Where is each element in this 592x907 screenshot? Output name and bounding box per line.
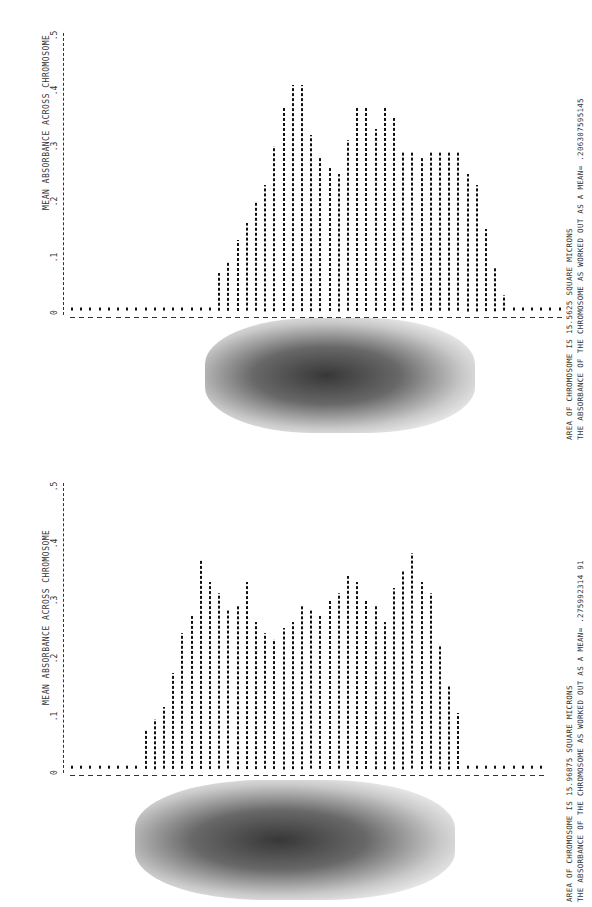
bar <box>484 764 488 770</box>
baseline-mark <box>392 775 397 776</box>
bar <box>190 616 194 770</box>
bar <box>355 107 359 312</box>
bar <box>282 628 286 771</box>
baseline-mark <box>410 775 415 776</box>
baseline-mark <box>116 775 121 776</box>
bar <box>236 605 240 770</box>
baseline-mark <box>428 317 433 318</box>
baseline-mark <box>263 775 268 776</box>
bar <box>199 306 203 312</box>
bar <box>530 764 534 770</box>
bar <box>383 107 387 312</box>
baseline-mark <box>539 317 544 318</box>
bar <box>456 151 460 312</box>
baseline-mark <box>208 775 213 776</box>
baseline-mark <box>392 317 397 318</box>
baseline-mark <box>364 775 369 776</box>
baseline-mark <box>254 317 259 318</box>
bar <box>374 129 378 312</box>
tick-3: .3 <box>50 142 59 152</box>
bar <box>539 306 543 312</box>
bar <box>420 157 424 312</box>
y-axis-label: MEAN ABSORBANCE ACROSS CHROMOSOME <box>42 530 51 705</box>
chromosome-image <box>205 318 475 433</box>
bar <box>134 306 138 312</box>
bar <box>180 306 184 312</box>
tick-1: .1 <box>50 253 59 263</box>
tick-4: .4 <box>50 86 59 96</box>
bar <box>502 764 506 770</box>
bar <box>438 151 442 312</box>
bar <box>392 588 396 770</box>
caption-mean: THE ABSORBANCE OF THE CHROMOSOME AS WORK… <box>576 560 585 902</box>
bar <box>263 185 267 312</box>
baseline-mark <box>79 775 84 776</box>
bar <box>171 306 175 312</box>
bar <box>171 673 175 770</box>
tick-5: .5 <box>50 482 59 492</box>
tick-1: .1 <box>50 712 59 722</box>
baseline-mark <box>474 317 479 318</box>
bar <box>521 764 525 770</box>
bar <box>429 593 433 770</box>
baseline-mark <box>373 775 378 776</box>
bar <box>272 639 276 770</box>
bar <box>98 306 102 312</box>
bar <box>180 633 184 770</box>
baseline-mark <box>208 317 213 318</box>
baseline-mark <box>79 317 84 318</box>
bar <box>392 118 396 312</box>
bar <box>79 306 83 312</box>
baseline-mark <box>346 775 351 776</box>
baseline-mark <box>474 775 479 776</box>
bar <box>429 151 433 312</box>
baseline-mark <box>290 775 295 776</box>
baseline-mark <box>162 775 167 776</box>
baseline-mark <box>493 775 498 776</box>
y-axis-line <box>63 483 64 773</box>
baseline-mark <box>272 317 277 318</box>
baseline-mark <box>438 317 443 318</box>
bar <box>134 764 138 770</box>
caption-area: AREA OF CHROMOSOME IS 15.96875 SQUARE MI… <box>565 685 574 902</box>
baseline-mark <box>134 775 139 776</box>
bar <box>116 306 120 312</box>
bar <box>558 306 562 312</box>
baseline-mark <box>116 317 121 318</box>
baseline-mark <box>171 775 176 776</box>
bar <box>447 151 451 312</box>
baseline-mark <box>511 317 516 318</box>
bar <box>88 306 92 312</box>
baseline-mark <box>300 775 305 776</box>
baseline-mark <box>106 775 111 776</box>
bar <box>153 306 157 312</box>
baseline-mark <box>484 775 489 776</box>
tick-3: .3 <box>50 596 59 606</box>
bar <box>475 764 479 770</box>
baseline-mark <box>419 775 424 776</box>
bar <box>291 85 295 312</box>
baseline-mark <box>152 317 157 318</box>
bar <box>401 571 405 771</box>
bar <box>263 633 267 770</box>
baseline-mark <box>134 317 139 318</box>
bar <box>254 201 258 312</box>
y-axis-label: MEAN ABSORBANCE ACROSS CHROMOSOME <box>42 35 51 210</box>
bar <box>364 599 368 770</box>
bar <box>125 306 129 312</box>
caption-area: AREA OF CHROMOSOME IS 15.5625 SQUARE MIC… <box>565 228 574 440</box>
baseline-mark <box>456 317 461 318</box>
bar <box>300 605 304 770</box>
absorbance-chart-2: MEAN ABSORBANCE ACROSS CHROMOSOME 0 .1 .… <box>0 470 592 907</box>
baseline-mark <box>189 775 194 776</box>
bar <box>401 151 405 312</box>
bar <box>107 764 111 770</box>
tick-2: .2 <box>50 654 59 664</box>
baseline-mark <box>217 775 222 776</box>
bar <box>318 157 322 312</box>
baseline-mark <box>419 317 424 318</box>
bar <box>493 268 497 312</box>
baseline-mark <box>97 317 102 318</box>
bar <box>337 593 341 770</box>
baseline-mark <box>401 775 406 776</box>
